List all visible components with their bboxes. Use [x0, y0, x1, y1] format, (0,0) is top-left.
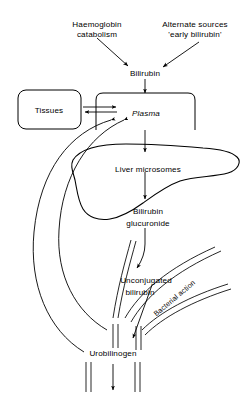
label-haemoglobin-catabolism-line2: catabolism — [77, 30, 117, 39]
label-plasma: Plasma — [132, 109, 160, 118]
arrow-haemoglobin-to-bilirubin — [97, 38, 128, 66]
arrow-glucuronide-to-unconjugated — [137, 228, 145, 268]
label-liver-microsomes: Liver microsomes — [115, 165, 181, 174]
label-bilirubin: Bilirubin — [130, 69, 160, 78]
label-alternate-sources-line2: 'early bilirubin' — [168, 30, 222, 39]
label-bilirubin-glucuronide-line2: glucuronide — [126, 219, 170, 228]
label-urobilinogen: Urobilinogen — [89, 349, 136, 358]
label-tissues: Tissues — [35, 106, 64, 115]
label-haemoglobin-catabolism-line1: Haemoglobin — [72, 20, 121, 29]
diagram-canvas: Haemoglobin catabolism Alternate sources… — [0, 0, 249, 396]
label-unconjugated-bilirubin-line2: bilirubin — [125, 288, 154, 297]
label-bilirubin-glucuronide-line1: Bilirubin — [133, 207, 163, 216]
enterohepatic-sweep-inner — [59, 120, 124, 330]
bilirubin-metabolism-diagram: Haemoglobin catabolism Alternate sources… — [0, 0, 249, 396]
label-unconjugated-bilirubin-line1: Unconjugated — [120, 276, 172, 285]
arrow-alternate-sources-to-bilirubin — [163, 42, 199, 67]
intestine-inner-upper — [131, 251, 221, 322]
label-alternate-sources-line1: Alternate sources — [162, 20, 228, 29]
enterohepatic-sweep-outer — [33, 120, 111, 352]
